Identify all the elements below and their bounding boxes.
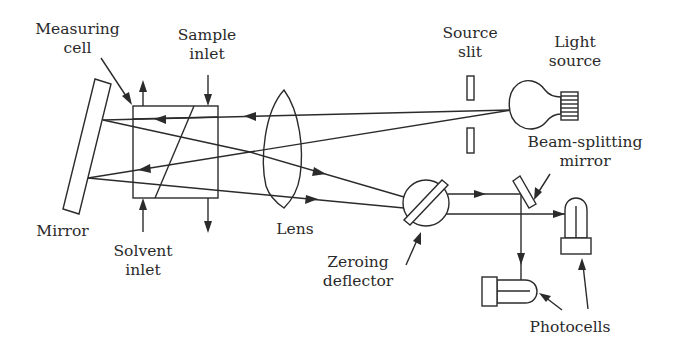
mirror: [63, 79, 111, 214]
cell-body: [133, 106, 218, 198]
label-zeroing-deflector: Zeroing deflector: [318, 253, 398, 291]
beam-to-deflector-upper: [250, 152, 404, 197]
label-line: inlet: [108, 261, 178, 280]
beam-in-cell: [133, 117, 218, 119]
photocells-pointer-right: [583, 265, 588, 309]
beam-arrow-icon: [474, 190, 486, 198]
label-line: mirror: [520, 152, 650, 171]
label-measuring-cell: Measuring cell: [30, 20, 125, 58]
label-line: cell: [30, 39, 125, 58]
beam-arrow-icon: [138, 164, 151, 173]
label-line: Sample: [172, 26, 242, 45]
beam-arrow-icon: [244, 112, 256, 121]
photocell-right: [561, 198, 591, 254]
arrow-down-icon: [204, 94, 212, 106]
photocell-lower: [482, 277, 537, 306]
label-line: Zeroing: [318, 253, 398, 272]
label-line: Light: [540, 33, 610, 52]
beam-arrow-icon: [305, 195, 318, 204]
beam-arrow-icon: [517, 253, 525, 265]
source-slit-lower: [467, 128, 474, 153]
label-solvent-inlet: Solvent inlet: [108, 242, 178, 280]
zeroing-deflector: [403, 180, 449, 226]
measuring-cell: [133, 75, 218, 233]
label-line: Photocells: [520, 318, 620, 337]
source-slit-upper: [467, 76, 474, 100]
label-sample-inlet: Sample inlet: [172, 26, 242, 64]
beam-arrow-icon: [154, 115, 166, 124]
label-line: inlet: [172, 45, 242, 64]
beam-source-to-mirror-bottom: [88, 110, 512, 178]
bulb-glass: [509, 81, 561, 129]
label-line: Lens: [270, 220, 320, 239]
label-line: source: [540, 52, 610, 71]
refractometer-diagram: Measuring cell Sample inlet Source slit …: [0, 0, 676, 358]
pointer-arrow-icon: [413, 232, 421, 245]
beam-splitting-mirror: [513, 176, 536, 208]
beam-arrow-icon: [553, 210, 565, 218]
label-light-source: Light source: [540, 33, 610, 71]
pointer-arrow-icon: [578, 258, 586, 270]
arrow-up-icon: [139, 198, 147, 210]
label-line: Solvent: [108, 242, 178, 261]
label-line: Measuring: [30, 20, 125, 39]
label-beam-splitting-mirror: Beam-splitting mirror: [520, 133, 650, 171]
pointer-arrow-icon: [122, 92, 132, 105]
label-line: Mirror: [30, 222, 95, 241]
label-line: Beam-splitting: [520, 133, 650, 152]
arrow-up-icon: [139, 80, 147, 92]
label-line: deflector: [318, 272, 398, 291]
arrow-down-icon: [204, 221, 212, 233]
light-source-bulb: [509, 81, 578, 129]
label-photocells: Photocells: [520, 318, 620, 337]
label-mirror: Mirror: [30, 222, 95, 241]
label-source-slit: Source slit: [435, 24, 505, 62]
photocell-right-base: [561, 238, 591, 254]
label-line: Source: [435, 24, 505, 43]
label-lens: Lens: [270, 220, 320, 239]
photocell-lower-base: [482, 277, 497, 306]
beam-arrow-icon: [312, 167, 326, 176]
label-line: slit: [435, 43, 505, 62]
